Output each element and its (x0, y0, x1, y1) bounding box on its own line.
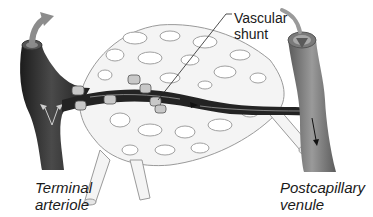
terminal-arteriole-label: Terminal arteriole (35, 179, 92, 213)
capillary-bed-diagram: Terminal arteriole Postcapillary venule … (0, 0, 373, 217)
postcapillary-venule-label: Postcapillary venule (280, 179, 365, 213)
vascular-shunt-label: Vascular shunt (234, 10, 287, 42)
postcapillary-venule (282, 10, 336, 172)
